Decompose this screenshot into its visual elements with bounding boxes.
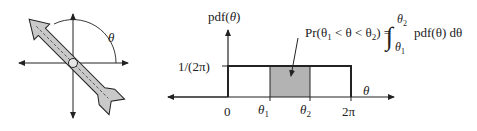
probability-formula: Pr(θ1 < θ < θ2) = — [305, 25, 391, 42]
integrand: pdf(θ) dθ — [414, 25, 462, 40]
integral-upper-limit: θ2 — [397, 12, 407, 28]
tick-label-zero: 0 — [224, 104, 231, 119]
level-label: 1/(2π) — [178, 59, 210, 74]
tick-label-theta1: θ1 — [258, 102, 269, 119]
x-axis-label: θ — [363, 83, 370, 98]
integral-sign: ∫ — [384, 22, 395, 52]
pdf-plot: pdf(θ) 1/(2π) 0 θ1 θ2 2π θ Pr(θ1 < θ < θ… — [168, 9, 462, 119]
tick-label-theta2: θ2 — [300, 102, 311, 119]
angle-label: θ — [108, 30, 115, 45]
integral-lower-limit: θ1 — [395, 40, 405, 56]
compass-figure: θ — [19, 11, 128, 118]
tick-label-twopi: 2π — [342, 104, 356, 119]
diagram-canvas: θ pdf(θ) 1/(2π) 0 θ1 θ2 2π θ Pr(θ1 < θ <… — [0, 0, 477, 131]
probability-region — [270, 66, 310, 97]
y-axis-label: pdf(θ) — [208, 9, 240, 24]
